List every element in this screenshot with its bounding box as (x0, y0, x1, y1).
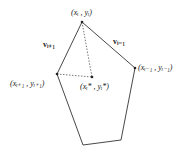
edge-label-v-minus: vᵢ₋₁ (113, 37, 125, 46)
edge-label-v-plus: vᵢ₊₁ (43, 40, 55, 49)
dotted-edge-top-centroid (82, 22, 92, 77)
vertex-point-right (134, 67, 137, 70)
dotted-edge-left-centroid (57, 74, 92, 77)
vertex-point-top (81, 21, 84, 24)
centroid-point (91, 76, 94, 79)
vertex-label-top: (xᵢ , yᵢ) (71, 8, 92, 17)
vertex-label-right: (xᵢ₋₁ , yᵢ₋₁) (138, 63, 173, 72)
vertex-point-left (56, 73, 59, 76)
vertex-label-left: (xᵢ₊₁ , yᵢ₊₁) (10, 79, 45, 88)
polygon-diagram (0, 0, 187, 154)
centroid-label: (xᵢ* , yᵢ*) (80, 82, 109, 91)
